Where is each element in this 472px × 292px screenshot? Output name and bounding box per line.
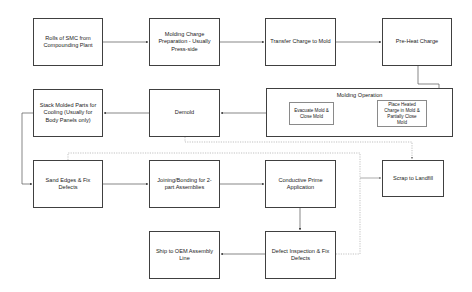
node-scrap: Scrap to Landfill: [382, 160, 444, 197]
node-label: Ship to OEM Assembly Line: [154, 248, 215, 262]
node-label: Defect Inspection & Fix Defects: [270, 248, 331, 262]
node-place-heated: Place Heated Charge in Mold & Partially …: [377, 100, 427, 127]
node-preheat: Pre-Heat Charge: [382, 18, 452, 66]
node-transfer-charge: Transfer Charge to Mold: [265, 18, 336, 66]
node-label: Evacuate Mold & Close Mold: [294, 108, 329, 120]
node-charge-prep: Molding Charge Preparation - Usually Pre…: [149, 18, 220, 66]
node-label: Sand Edges & Fix Defects: [38, 177, 98, 191]
node-rolls-smc: Rolls of SMC from Compounding Plant: [33, 18, 103, 66]
node-label: Scrap to Landfill: [393, 175, 433, 182]
dashed-demold-to-scrap: [185, 137, 412, 159]
node-demold: Demold: [149, 89, 220, 137]
node-defect-inspection: Defect Inspection & Fix Defects: [265, 231, 336, 279]
node-label: Place Heated Charge in Mold & Partially …: [382, 102, 422, 126]
node-conductive-prime: Conductive Prime Application: [265, 160, 336, 208]
node-label: Stack Molded Parts for Cooling (Usually …: [38, 102, 98, 124]
node-label: Transfer Charge to Mold: [270, 38, 330, 45]
node-label: Pre-Heat Charge: [396, 38, 438, 45]
node-stack-cooling: Stack Molded Parts for Cooling (Usually …: [33, 89, 103, 137]
node-joining: Joining/Bonding for 2-part Assemblies: [149, 160, 220, 208]
node-sand-edges: Sand Edges & Fix Defects: [33, 160, 103, 208]
node-label: Joining/Bonding for 2-part Assemblies: [154, 177, 215, 191]
group-title: Molding Operation: [267, 92, 452, 98]
node-label: Rolls of SMC from Compounding Plant: [38, 35, 98, 49]
node-label: Molding Charge Preparation - Usually Pre…: [154, 31, 215, 53]
dashed-defect-to-scrap: [336, 178, 360, 254]
node-label: Demold: [175, 109, 194, 116]
node-ship-oem: Ship to OEM Assembly Line: [149, 231, 220, 279]
arrow-stack-to-sand: [22, 113, 33, 184]
node-evacuate: Evacuate Mold & Close Mold: [289, 102, 334, 125]
node-label: Conductive Prime Application: [270, 177, 331, 191]
